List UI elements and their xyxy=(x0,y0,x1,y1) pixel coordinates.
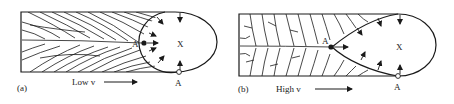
point-a-tip-label-a: A xyxy=(132,39,139,49)
region-x-label-a: X xyxy=(177,39,184,49)
point-a-edge-marker-b xyxy=(396,74,401,79)
pool-boundary-b xyxy=(332,14,398,76)
point-a-edge-marker-a xyxy=(177,70,182,75)
weld-pool-diagram: A X A (a) Low v xyxy=(0,0,454,104)
panel-b: A X A (b) High v xyxy=(238,14,436,94)
point-a-tip-marker-b xyxy=(328,44,333,49)
point-a-edge-label-b: A xyxy=(394,82,401,92)
speed-label-b: High v xyxy=(276,84,301,94)
point-a-tip-marker-a xyxy=(141,40,146,45)
growth-arrows-a xyxy=(147,13,180,70)
panel-label-a: (a) xyxy=(17,83,27,93)
point-a-tip-label-b: A xyxy=(322,36,329,46)
weld-outline-b xyxy=(239,14,436,76)
region-x-label-b: X xyxy=(396,42,403,52)
panel-a: A X A (a) Low v xyxy=(17,12,217,93)
speed-label-a: Low v xyxy=(72,77,96,87)
panel-label-b: (b) xyxy=(238,84,249,94)
columnar-grains-b xyxy=(240,14,368,76)
point-a-edge-label-a: A xyxy=(175,78,182,88)
